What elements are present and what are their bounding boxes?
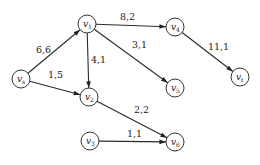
edge-label: 1,5: [48, 69, 63, 80]
edge-label: 3,1: [132, 39, 147, 50]
edge-v1-v4: [96, 24, 166, 26]
edge-label: 4,1: [91, 54, 106, 65]
node-v4: v4: [166, 18, 184, 36]
edge-vs-v2: [30, 81, 81, 94]
node-v2: v2: [80, 88, 98, 106]
node-v3: v3: [81, 132, 99, 150]
edge-v4-vt: [182, 32, 233, 71]
flow-network-diagram: 6,61,54,18,23,111,12,21,1 vsv1v2v3v4v5v6…: [0, 0, 260, 165]
edge-label: 6,6: [36, 44, 51, 55]
arrow-icon: [96, 24, 166, 26]
edge-label: 1,1: [127, 128, 142, 139]
node-vs: vs: [12, 70, 30, 88]
node-vt: vt: [231, 68, 249, 86]
node-v5: v5: [166, 79, 184, 97]
arrow-icon: [99, 141, 166, 142]
edge-label: 8,2: [120, 11, 135, 22]
node-v1: v1: [78, 15, 96, 33]
arrow-icon: [87, 33, 89, 88]
node-v6: v6: [166, 133, 184, 151]
arrow-icon: [182, 32, 233, 71]
edges-layer: [28, 24, 233, 142]
edge-label: 11,1: [208, 41, 229, 52]
edge-label: 2,2: [134, 104, 149, 115]
edge-v1-v2: [87, 33, 89, 88]
edge-v3-v6: [99, 141, 166, 142]
arrow-icon: [30, 81, 81, 94]
